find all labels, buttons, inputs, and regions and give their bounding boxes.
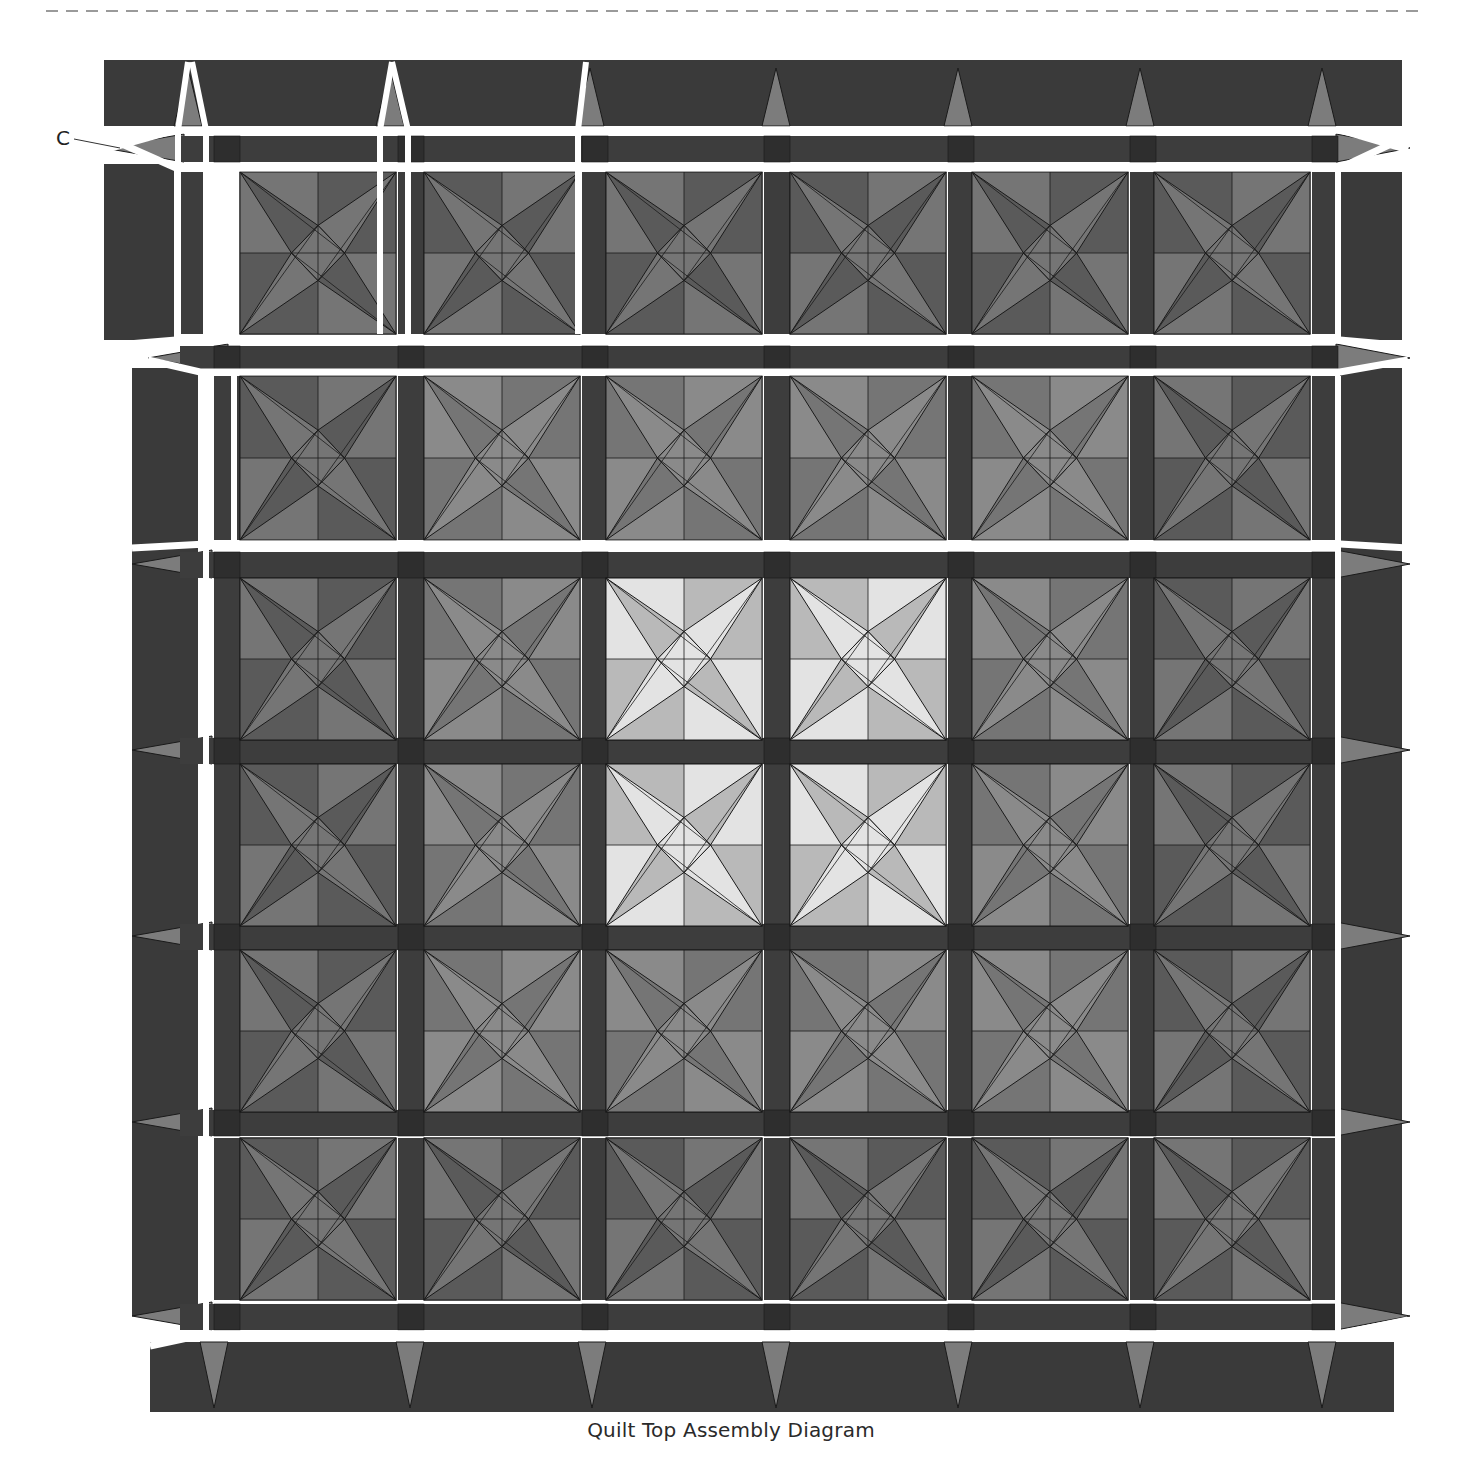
sashing-horizontal [180,136,1334,162]
cornerstone [1312,552,1338,578]
sashing-horizontal [180,738,1334,764]
assembly-gap [104,340,1408,346]
sashing-vertical [398,1138,424,1300]
sashing-horizontal [180,552,1334,578]
sashing-horizontal [180,1110,1334,1136]
cornerstone [1130,1304,1156,1330]
cornerstone [948,738,974,764]
cornerstone [582,924,608,950]
sashing-vertical [582,1138,608,1300]
cornerstone [214,1110,240,1136]
sashing-vertical [398,764,424,926]
sashing-vertical [582,172,608,334]
cornerstone [1130,924,1156,950]
sashing-vertical [214,1138,240,1300]
cornerstone [582,1110,608,1136]
sashing-vertical [1312,578,1338,740]
right-border [1340,368,1402,1318]
cornerstone [1312,346,1338,372]
cornerstone [582,738,608,764]
sashing-vertical [1130,578,1156,740]
cornerstone [764,738,790,764]
sashing-vertical [948,376,974,540]
sashing-vertical [948,578,974,740]
sashing-vertical [948,172,974,334]
right-border-top [1340,172,1402,340]
sashing-vertical [764,172,790,334]
cornerstone [582,136,608,162]
sashing-horizontal [180,924,1334,950]
left-border-top [104,164,174,340]
cornerstone [1130,346,1156,372]
cornerstone [764,552,790,578]
cornerstone [398,924,424,950]
left-border [132,368,198,1316]
assembly-gap [132,544,1408,548]
sashing-vertical [1130,1138,1156,1300]
cornerstone [398,1110,424,1136]
cornerstone [1312,924,1338,950]
sashing-vertical [398,578,424,740]
sashing-vertical [1130,764,1156,926]
cornerstone [764,346,790,372]
cornerstone [948,1110,974,1136]
sashing-vertical [764,578,790,740]
cornerstone [582,346,608,372]
sashing-vertical [1312,950,1338,1112]
sashing-vertical [582,376,608,540]
cornerstone [214,1304,240,1330]
sashing-vertical [1130,376,1156,540]
quilt-assembly-diagram [0,0,1462,1467]
cornerstone [764,136,790,162]
sashing-vertical [582,950,608,1112]
cornerstone [398,346,424,372]
callout-label-c: C [56,126,70,150]
sashing-vertical [1312,376,1338,540]
sashing-vertical [948,950,974,1112]
cornerstone [948,552,974,578]
sashing-vertical [398,950,424,1112]
cornerstone [948,924,974,950]
cornerstone [214,552,240,578]
sashing-vertical [1312,172,1338,334]
cornerstone [214,924,240,950]
cornerstone [948,136,974,162]
sashing-vertical [948,1138,974,1300]
cornerstone [1312,738,1338,764]
sashing-vertical [764,1138,790,1300]
cornerstone [582,1304,608,1330]
sashing-vertical [214,578,240,740]
sashing-vertical [582,578,608,740]
cornerstone [1312,1110,1338,1136]
sashing-vertical [1312,1138,1338,1300]
cornerstone [214,738,240,764]
sashing-horizontal [180,346,1334,372]
sashing-vertical [214,950,240,1112]
cornerstone [764,1110,790,1136]
cornerstone [764,1304,790,1330]
cornerstone [214,346,240,372]
sashing-vertical [764,764,790,926]
diagram-caption: Quilt Top Assembly Diagram [0,1418,1462,1442]
cornerstone [398,738,424,764]
cornerstone [1130,738,1156,764]
cornerstone [1130,1110,1156,1136]
cornerstone [214,136,240,162]
cornerstone [948,346,974,372]
sashing-vertical [214,764,240,926]
cornerstone [1312,136,1338,162]
cornerstone [398,1304,424,1330]
sashing-vertical [948,764,974,926]
sashing-vertical [764,376,790,540]
cornerstone [1130,552,1156,578]
sashing-vertical [764,950,790,1112]
cornerstone [1312,1304,1338,1330]
sashing-vertical [582,764,608,926]
sashing-vertical [1130,172,1156,334]
sashing-horizontal [180,1304,1334,1330]
cornerstone [1130,136,1156,162]
cornerstone [398,552,424,578]
sashing-vertical [180,172,206,334]
top-border [104,60,1402,126]
sashing-vertical [1130,950,1156,1112]
